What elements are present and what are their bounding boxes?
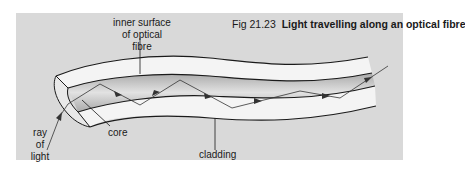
label-ray-line1: ray of (28, 127, 52, 151)
label-inner-surface: inner surface of optical fibre (112, 17, 172, 53)
figure-title: Light travelling along an optical fibre (282, 18, 465, 30)
figure-caption: Fig 21.23 Light travelling along an opti… (232, 18, 465, 30)
label-ray-line2: light (28, 151, 52, 163)
label-cladding: cladding (199, 149, 236, 161)
label-ray-of-light: ray of light (28, 127, 52, 163)
label-inner-surface-line2: of optical fibre (112, 29, 172, 53)
figure-number: Fig 21.23 (232, 18, 276, 30)
label-inner-surface-line1: inner surface (112, 17, 172, 29)
label-core: core (108, 127, 127, 139)
ray-arrow-1 (56, 112, 62, 121)
